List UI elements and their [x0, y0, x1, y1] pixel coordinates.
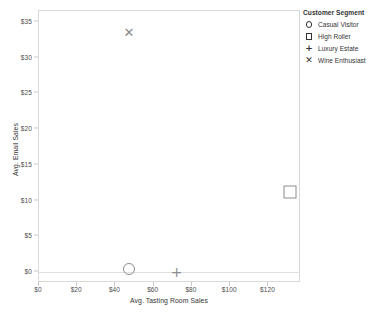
legend-item-label: Casual Visitor — [315, 21, 359, 28]
data-point-square-marker[interactable] — [283, 186, 296, 199]
x-tick-label: $60 — [136, 286, 170, 293]
x-tick-mark — [191, 282, 192, 286]
x-tick-label: $40 — [97, 286, 131, 293]
legend-item-label: High Roller — [315, 33, 351, 40]
x-tick-mark — [229, 282, 230, 286]
square-marker-icon — [303, 33, 315, 40]
x-tick-mark — [38, 282, 39, 286]
legend-item-casual-visitor[interactable]: Casual Visitor — [303, 19, 375, 30]
data-points-layer: +✕ — [39, 11, 299, 281]
circle-marker-icon — [303, 21, 315, 28]
x-tick-mark — [114, 282, 115, 286]
legend-title: Customer Segment — [303, 9, 375, 16]
legend-item-high-roller[interactable]: High Roller — [303, 31, 375, 42]
legend-items: Casual VisitorHigh Roller+Luxury Estate✕… — [303, 19, 375, 66]
square-shape — [306, 33, 313, 40]
y-tick-label: $5 — [2, 232, 32, 239]
legend: Customer Segment Casual VisitorHigh Roll… — [303, 9, 375, 67]
y-tick-label: $35 — [2, 17, 32, 24]
y-tick-label: $10 — [2, 196, 32, 203]
legend-item-label: Wine Enthusiast — [315, 57, 366, 64]
data-point-circle-marker[interactable] — [123, 263, 135, 275]
legend-item-wine-enthusiast[interactable]: ✕Wine Enthusiast — [303, 55, 375, 66]
scatter-plot-chart: Avg. Email Sales $0$5$10$15$20$25$30$35 … — [0, 0, 375, 320]
y-tick-label: $30 — [2, 53, 32, 60]
x-marker-icon: ✕ — [303, 56, 315, 65]
y-tick-label: $20 — [2, 125, 32, 132]
plus-marker-icon: + — [303, 44, 315, 53]
x-tick-mark — [267, 282, 268, 286]
x-tick-mark — [153, 282, 154, 286]
x-tick-label: $120 — [250, 286, 284, 293]
legend-item-label: Luxury Estate — [315, 45, 358, 52]
x-axis-title: Avg. Tasting Room Sales — [38, 297, 300, 304]
data-point-plus-marker[interactable]: + — [170, 266, 183, 279]
x-tick-mark — [76, 282, 77, 286]
x-tick-label: $20 — [59, 286, 93, 293]
x-tick-label: $0 — [21, 286, 55, 293]
y-tick-label: $15 — [2, 160, 32, 167]
x-tick-label: $80 — [174, 286, 208, 293]
y-tick-label: $0 — [2, 268, 32, 275]
y-tick-label: $25 — [2, 89, 32, 96]
legend-item-luxury-estate[interactable]: +Luxury Estate — [303, 43, 375, 54]
circle-shape — [306, 21, 313, 28]
x-tick-label: $100 — [212, 286, 246, 293]
plot-area: +✕ — [38, 10, 300, 282]
data-point-ex-marker[interactable]: ✕ — [122, 26, 135, 39]
